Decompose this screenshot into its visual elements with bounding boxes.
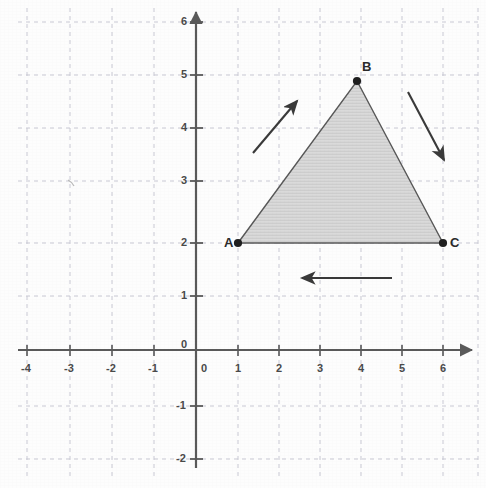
point-b [353,77,361,85]
y-tick-6: 6 [181,16,187,27]
y-tick-neg1: -1 [176,400,186,411]
x-tick-0: 0 [201,363,207,374]
x-tick-1: 1 [235,363,241,374]
x-tick-3: 3 [317,363,323,374]
y-tick-2: 2 [181,237,187,248]
y-tick-0: 0 [181,339,187,350]
x-tick-5: 5 [399,363,405,374]
x-tick-4: 4 [358,363,364,374]
arrow-down-right [408,92,444,160]
x-tick-neg3: -3 [64,363,74,374]
y-tick-4: 4 [181,122,187,133]
grid-vertical [27,8,478,480]
x-tick-neg2: -2 [106,363,116,374]
x-tick-neg1: -1 [148,363,158,374]
y-tick-3: 3 [181,175,187,186]
coordinate-plane-figure: 6 5 4 3 2 1 0 -1 -2 -4 -3 -2 -1 0 1 2 3 … [0,0,486,488]
x-tick-neg4: -4 [21,363,31,374]
y-tick-neg2: -2 [176,453,186,464]
triangle-shape [238,81,443,243]
x-tick-6: 6 [440,363,446,374]
y-tick-1: 1 [181,290,187,301]
y-tick-5: 5 [181,69,187,80]
vertex-label-a: A [224,236,233,249]
point-c [439,239,447,247]
vertex-label-b: B [362,60,371,73]
x-tick-2: 2 [276,363,282,374]
point-a [234,239,242,247]
plot-svg [0,0,486,488]
vertex-label-c: C [450,236,459,249]
arrow-up-right [253,101,297,153]
